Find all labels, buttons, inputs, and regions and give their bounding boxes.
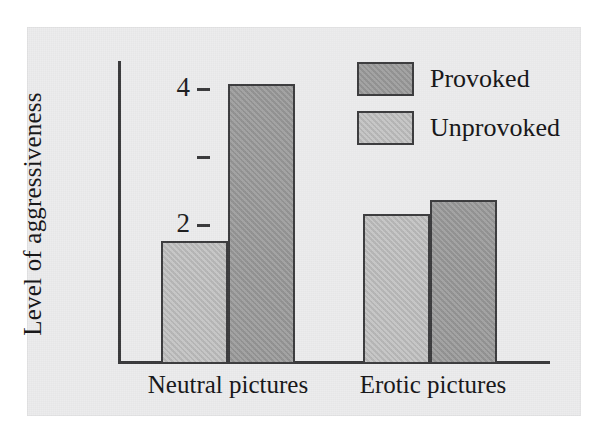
legend-item-unprovoked: Unprovoked — [357, 103, 560, 152]
y-tick-2: 2 — [197, 224, 210, 227]
bar-erotic-provoked — [430, 200, 497, 364]
bar-neutral-provoked — [228, 84, 295, 364]
y-tick-label-4: 4 — [177, 74, 191, 101]
y-tick-label-2: 2 — [177, 210, 191, 237]
bar-neutral-unprovoked — [161, 241, 228, 364]
scanned-figure-panel: 4 2 Level of aggressiveness — [27, 27, 581, 416]
legend-swatch-provoked-icon — [357, 62, 414, 96]
x-label-neutral-pictures: Neutral pictures — [117, 371, 339, 399]
figure-screenshot: 4 2 Level of aggressiveness — [0, 0, 612, 437]
legend-label-unprovoked: Unprovoked — [430, 113, 560, 143]
legend-swatch-unprovoked-icon — [357, 111, 414, 145]
y-axis-title: Level of aggressiveness — [19, 89, 47, 339]
x-label-erotic-pictures: Erotic pictures — [322, 371, 544, 399]
bar-erotic-unprovoked — [363, 214, 430, 364]
y-tick-4: 4 — [197, 88, 210, 91]
bar-chart: 4 2 Level of aggressiveness — [27, 27, 581, 416]
legend-label-provoked: Provoked — [430, 64, 530, 94]
legend-item-provoked: Provoked — [357, 54, 560, 103]
y-tick-3 — [197, 156, 210, 159]
legend: Provoked Unprovoked — [357, 54, 560, 152]
y-axis-line: 4 2 — [118, 61, 121, 364]
